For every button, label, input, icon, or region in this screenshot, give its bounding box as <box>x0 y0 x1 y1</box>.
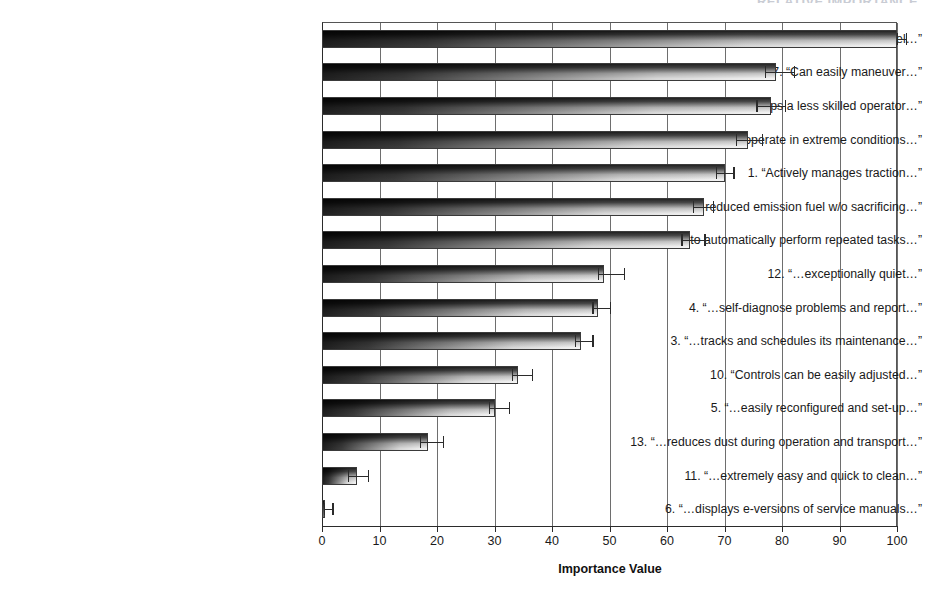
error-bar-cap-low <box>681 234 682 246</box>
bar-9 <box>322 299 598 317</box>
x-tick-90 <box>840 526 841 532</box>
x-tick-80 <box>782 526 783 532</box>
x-tick-label-40: 40 <box>545 534 559 548</box>
error-bar-line <box>489 408 509 409</box>
bar-11 <box>322 366 518 384</box>
error-bar-cap-low <box>348 470 349 482</box>
x-tick-50 <box>610 526 611 532</box>
x-tick-100 <box>897 526 898 532</box>
bar-13 <box>322 433 428 451</box>
bar-row <box>0 332 928 350</box>
error-bar-line <box>575 341 592 342</box>
figure-canvas: RELATIVE IMPORTANCE 01020304050607080901… <box>0 0 928 609</box>
bar-4 <box>322 131 748 149</box>
error-bar-cap-high <box>532 369 533 381</box>
bar-row <box>0 164 928 182</box>
x-tick-30 <box>495 526 496 532</box>
bar-row <box>0 299 928 317</box>
bar-7 <box>322 231 690 249</box>
error-bar-cap-low <box>736 134 737 146</box>
bar-3 <box>322 97 771 115</box>
bar-row <box>0 97 928 115</box>
bar-row <box>0 63 928 81</box>
error-bar-line <box>693 207 713 208</box>
x-axis-title: Importance Value <box>322 562 898 576</box>
error-bar-cap-high <box>762 134 763 146</box>
bar-1 <box>322 30 897 48</box>
error-bar-line <box>736 140 762 141</box>
error-bar-cap-high <box>906 33 907 45</box>
cut-off-header: RELATIVE IMPORTANCE <box>757 0 918 3</box>
error-bar-line <box>420 442 443 443</box>
error-bar-cap-high <box>592 335 593 347</box>
error-bar-line <box>512 375 532 376</box>
x-tick-label-10: 10 <box>373 534 387 548</box>
x-tick-label-20: 20 <box>430 534 444 548</box>
bar-6 <box>322 198 704 216</box>
bar-row <box>0 198 928 216</box>
error-bar-cap-low <box>592 302 593 314</box>
bar-row <box>0 265 928 283</box>
x-tick-label-50: 50 <box>603 534 617 548</box>
bar-row <box>0 30 928 48</box>
x-tick-label-100: 100 <box>887 534 908 548</box>
error-bar-cap-high <box>785 100 786 112</box>
error-bar-cap-low <box>420 436 421 448</box>
bar-row <box>0 131 928 149</box>
error-bar-cap-low <box>693 201 694 213</box>
error-bar-line <box>348 476 368 477</box>
error-bar-cap-low <box>324 503 325 515</box>
error-bar-line <box>756 106 785 107</box>
error-bar-cap-low <box>575 335 576 347</box>
bar-5 <box>322 164 725 182</box>
x-tick-label-30: 30 <box>488 534 502 548</box>
bar-row <box>0 231 928 249</box>
error-bar-cap-high <box>332 503 333 515</box>
x-tick-60 <box>667 526 668 532</box>
x-tick-10 <box>380 526 381 532</box>
error-bar-cap-high <box>704 234 705 246</box>
x-tick-label-90: 90 <box>833 534 847 548</box>
x-tick-70 <box>725 526 726 532</box>
error-bar-cap-high <box>733 167 734 179</box>
error-bar-cap-low <box>765 66 766 78</box>
bar-row <box>0 500 928 518</box>
error-bar-cap-low <box>489 402 490 414</box>
bar-10 <box>322 332 581 350</box>
error-bar-cap-high <box>713 201 714 213</box>
error-bar-cap-low <box>512 369 513 381</box>
error-bar-cap-low <box>716 167 717 179</box>
error-bar-line <box>598 274 624 275</box>
x-tick-label-60: 60 <box>660 534 674 548</box>
error-bar-cap-high <box>610 302 611 314</box>
x-tick-40 <box>552 526 553 532</box>
error-bar-cap-high <box>794 66 795 78</box>
x-tick-0 <box>322 526 323 532</box>
x-tick-label-0: 0 <box>319 534 326 548</box>
bar-row <box>0 467 928 485</box>
error-bar-line <box>681 240 704 241</box>
error-bar-cap-low <box>598 268 599 280</box>
bar-row <box>0 366 928 384</box>
x-tick-label-80: 80 <box>775 534 789 548</box>
error-bar-cap-high <box>443 436 444 448</box>
bar-row <box>0 433 928 451</box>
error-bar-cap-high <box>509 402 510 414</box>
error-bar-cap-high <box>624 268 625 280</box>
error-bar-cap-low <box>897 33 898 45</box>
bar-row <box>0 399 928 417</box>
bar-2 <box>322 63 776 81</box>
error-bar-line <box>716 173 733 174</box>
bar-8 <box>322 265 604 283</box>
error-bar-cap-low <box>756 100 757 112</box>
bar-12 <box>322 399 495 417</box>
error-bar-cap-high <box>368 470 369 482</box>
error-bar-line <box>592 308 609 309</box>
error-bar-line <box>765 72 794 73</box>
x-tick-20 <box>437 526 438 532</box>
x-tick-label-70: 70 <box>718 534 732 548</box>
